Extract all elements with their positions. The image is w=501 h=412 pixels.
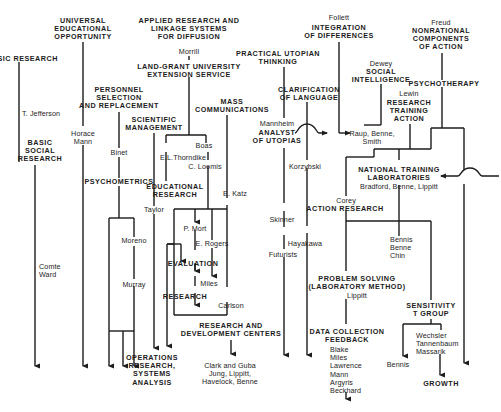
node-scientific-management: SCIENTIFIC MANAGEMENT: [125, 116, 182, 132]
node-skinner: Skinner: [269, 216, 294, 224]
node-data-collection: DATA COLLECTION FEEDBACK: [310, 328, 385, 344]
node-data-names: Blake Miles Lawrence Mann Argyris Beckha…: [330, 346, 362, 395]
node-problem-solving: PROBLEM SOLVING (LABORATORY METHOD): [308, 275, 405, 291]
node-action-research: ACTION RESEARCH: [306, 205, 383, 213]
node-social-intelligence: SOCIAL INTELLIGENCE: [352, 68, 411, 84]
node-applied-research: APPLIED RESEARCH AND LINKAGE SYSTEMS FOR…: [139, 17, 240, 42]
node-research: RESEARCH: [163, 293, 207, 301]
node-hayakawa: Hayakawa: [288, 240, 322, 248]
node-c-loomis: C. Loomis: [188, 163, 221, 171]
node-research-training-action: RESEARCH TRAINING ACTION: [387, 99, 431, 124]
node-educational-research: EDUCATIONAL RESEARCH: [146, 183, 203, 199]
node-moreno: Moreno: [122, 237, 147, 245]
node-evaluation: EVALUATION: [168, 260, 219, 268]
node-nonrational-components: NONRATIONAL COMPONENTS OF ACTION: [412, 27, 470, 52]
node-carlson: Carlson: [218, 302, 243, 310]
node-practical-utopian: PRACTICAL UTOPIAN THINKING: [236, 50, 320, 66]
node-psychotherapy: PSYCHOTHERAPY: [408, 80, 479, 88]
node-korzybski: Korzybski: [289, 163, 321, 171]
node-mannheim: Mannheim: [260, 120, 294, 128]
node-universal-education: UNIVERSAL EDUCATIONAL OPPORTUNITY: [54, 17, 111, 42]
node-sensitivity-t-group: SENSITIVITY T GROUP: [406, 302, 455, 318]
node-basic-research: BASIC RESEARCH: [0, 55, 58, 63]
node-murray: Murray: [123, 281, 146, 289]
node-follett: Follett: [329, 14, 349, 22]
node-bennis-benne-chin: Bennis Benne Chin: [390, 236, 413, 261]
node-personnel-selection: PERSONNEL SELECTION AND REPLACEMENT: [79, 86, 159, 111]
node-t-jefferson: T. Jefferson: [22, 110, 60, 118]
node-horace-mann: Horace Mann: [71, 130, 95, 146]
node-p-mort: P. Mort: [184, 225, 207, 233]
node-miles: Miles: [200, 280, 217, 288]
node-taylor: Taylor: [144, 206, 164, 214]
node-mass-communications: MASS COMMUNICATIONS: [195, 98, 269, 114]
node-basic-social-research: BASIC SOCIAL RESEARCH: [18, 139, 62, 164]
node-land-grant: LAND-GRANT UNIVERSITY EXTENSION SERVICE: [137, 63, 241, 79]
node-psychometrics: PSYCHOMETRICS: [84, 178, 153, 186]
node-clark-guba: Clark and Guba Jung, Lippitt, Havelock, …: [202, 362, 258, 387]
node-national-training-labs: NATIONAL TRAINING LABORATORIES: [358, 166, 440, 182]
node-analyst-utopias: ANALYST OF UTOPIAS: [253, 129, 302, 145]
node-binet: Binet: [111, 149, 128, 157]
node-wechsler-tannenbaum-massarik: Wechsler Tannenbaum Massarik: [416, 332, 459, 357]
node-comte-ward: Comte Ward: [39, 263, 61, 279]
node-lippitt: Lippitt: [347, 292, 367, 300]
node-morrill: Morrill: [179, 48, 199, 56]
node-bennis: Bennis: [387, 361, 410, 369]
node-operations-research: OPERATIONS RESEARCH, SYSTEMS ANALYSIS: [126, 354, 178, 387]
node-ntl-founders: Bradford, Benne, Lippitt: [360, 183, 438, 191]
node-e-katz: E. Katz: [223, 190, 247, 198]
node-e-rogers: E. Rogers: [196, 240, 229, 248]
node-raup-benne-smith: Raup, Benne, Smith: [349, 130, 394, 146]
node-boas: Boas: [196, 142, 213, 150]
node-clarification-language: CLARIFICATION OF LANGUAGE: [278, 86, 340, 102]
genealogy-diagram: BASIC RESEARCH T. Jefferson BASIC SOCIAL…: [0, 0, 501, 412]
node-futurists: Futurists: [269, 251, 297, 259]
node-integration-differences: INTEGRATION OF DIFFERENCES: [304, 24, 374, 40]
node-growth: GROWTH: [423, 380, 459, 388]
node-thorndike: E.L.Thorndike: [160, 154, 206, 162]
node-lewin: Lewin: [399, 90, 418, 98]
node-rd-centers: RESEARCH AND DEVELOPMENT CENTERS: [181, 322, 282, 338]
